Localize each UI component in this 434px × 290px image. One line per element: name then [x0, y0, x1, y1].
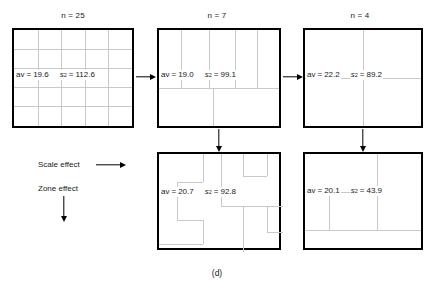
arrow-zone-right — [357, 129, 369, 152]
zone-vline — [267, 154, 268, 176]
grid-hline — [14, 68, 132, 69]
stat-variance-top-right: s2 = 89.2 — [350, 70, 383, 80]
av-value: 19.6 — [33, 71, 49, 79]
grid-hline — [14, 49, 132, 50]
av-value: 20.7 — [178, 188, 194, 196]
grid-hline — [14, 87, 132, 88]
zone-vline — [243, 206, 244, 252]
arrow-head — [61, 216, 67, 222]
equals-symbol: = — [171, 71, 176, 79]
stats-bottom-right: av = 20.1 s2 = 43.9 — [306, 186, 383, 196]
zone-hline — [177, 220, 203, 221]
legend-scale-effect-label: Scale effect — [38, 160, 80, 169]
zone-vline — [203, 220, 204, 244]
zone-hline — [243, 206, 283, 207]
zone-vline — [267, 206, 268, 232]
arrow-zone-middle — [213, 129, 225, 152]
grid-hline — [14, 106, 132, 107]
stat-av-top-left: av = 19.6 — [15, 70, 50, 80]
arrow-shaft — [63, 196, 64, 217]
panel-bottom-right — [303, 152, 423, 250]
legend-zone-effect-arrow — [58, 196, 70, 222]
zone-hline — [159, 244, 203, 245]
figure-caption: (d) — [0, 268, 434, 278]
variance-value: 92.8 — [220, 188, 236, 196]
av-value: 22.2 — [324, 71, 340, 79]
stat-variance-top-left: s2 = 112.6 — [59, 70, 96, 80]
variance-value: 112.6 — [75, 71, 94, 79]
av-symbol: av — [161, 71, 169, 79]
variance-value: 89.2 — [366, 71, 382, 79]
equals-symbol: = — [69, 71, 74, 79]
zone-hline — [159, 88, 279, 89]
arrow-scale-1 — [136, 71, 156, 83]
equals-symbol: = — [26, 71, 31, 79]
av-symbol: av — [161, 188, 169, 196]
av-value: 20.1 — [324, 187, 340, 195]
stat-av-bottom-right: av = 20.1 — [306, 186, 341, 196]
av-symbol: av — [307, 71, 315, 79]
stat-variance-bottom-right: s2 = 43.9 — [350, 186, 383, 196]
equals-symbol: = — [214, 188, 219, 196]
equals-symbol: = — [171, 188, 176, 196]
arrow-shaft — [283, 76, 298, 77]
equals-symbol: = — [214, 71, 219, 79]
grid-irregular-7-alt — [159, 154, 279, 248]
variance-value: 43.9 — [366, 187, 382, 195]
stats-bottom-middle: av = 20.7 s2 = 92.8 — [160, 187, 237, 197]
arrow-head — [120, 162, 126, 168]
zone-vline — [243, 154, 244, 176]
grid-vline — [108, 30, 109, 126]
n-label-top-left: n = 25 — [8, 11, 138, 20]
stat-av-bottom-middle: av = 20.7 — [160, 187, 195, 197]
panel-bottom-middle — [157, 152, 281, 250]
zone-hline — [267, 232, 283, 233]
equals-symbol: = — [317, 187, 322, 195]
n-label-top-right: n = 4 — [295, 11, 425, 20]
av-symbol: av — [307, 187, 315, 195]
stats-top-middle: av = 19.0 s2 = 99.1 — [160, 70, 237, 80]
zone-hline — [305, 230, 421, 231]
zone-hline — [221, 206, 243, 207]
arrow-head — [150, 74, 156, 80]
stats-top-left: av = 19.6 s2 = 112.6 — [15, 70, 96, 80]
zone-vline — [203, 154, 204, 182]
legend-scale-effect-arrow — [96, 159, 126, 171]
zone-vline — [257, 30, 258, 88]
stat-av-top-middle: av = 19.0 — [160, 70, 195, 80]
legend-zone-effect-label: Zone effect — [38, 184, 78, 193]
zone-hline — [243, 176, 267, 177]
zone-hline — [177, 182, 203, 183]
zone-vline — [221, 154, 222, 206]
arrow-shaft — [136, 76, 151, 77]
equals-symbol: = — [360, 187, 365, 195]
figure-container: n = 25 n = 7 n = 4 av = 19.6 s2 = 112.6 — [0, 0, 434, 290]
stats-top-right: av = 22.2 s2 = 89.2 — [306, 70, 383, 80]
stat-variance-bottom-middle: s2 = 92.8 — [204, 187, 237, 197]
arrow-shaft — [362, 129, 363, 147]
zone-vline — [329, 192, 330, 230]
grid-irregular-4-alt — [305, 154, 421, 248]
n-label-top-middle: n = 7 — [152, 11, 282, 20]
stat-av-top-right: av = 22.2 — [306, 70, 341, 80]
av-value: 19.0 — [178, 71, 194, 79]
stat-variance-top-middle: s2 = 99.1 — [204, 70, 237, 80]
arrow-shaft — [218, 129, 219, 147]
arrow-shaft — [96, 164, 121, 165]
equals-symbol: = — [360, 71, 365, 79]
equals-symbol: = — [317, 71, 322, 79]
zone-vline — [213, 88, 214, 126]
arrow-scale-2 — [283, 71, 303, 83]
variance-value: 99.1 — [220, 71, 236, 79]
av-symbol: av — [16, 71, 24, 79]
